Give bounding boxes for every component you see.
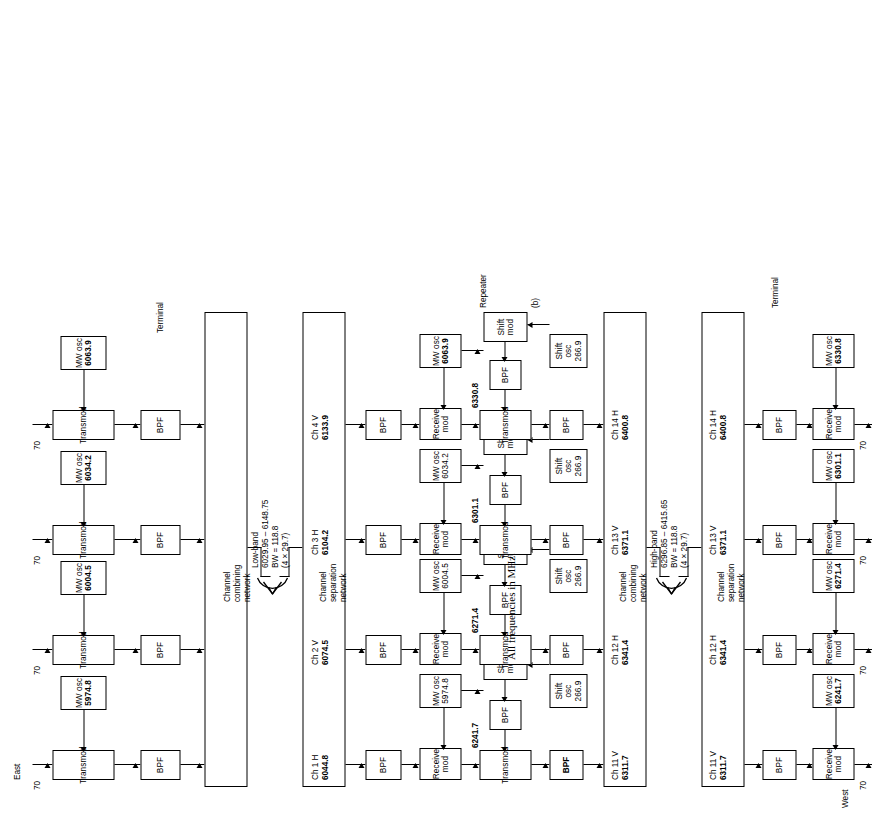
repeater-in-channel-4: Ch 4 V 6133.9 (310, 415, 330, 440)
west-label: West (840, 789, 849, 808)
rep-transmod-1[interactable]: Transmod (479, 750, 531, 780)
east-bpf-bus-arrow-1 (196, 763, 202, 768)
rep-shift-osc-3-freq: 266.9 (573, 456, 582, 477)
repeater-in-channel-1-freq: 6044.8 (320, 755, 330, 780)
repeater-out-channel-2: Ch 12 H 6341.4 (610, 635, 630, 665)
rep-bpf-out-4[interactable]: BPF (549, 410, 583, 440)
east-bpf-2[interactable]: BPF (140, 635, 180, 665)
rep-mw-osc-3[interactable]: MW osc 6034.2 (419, 449, 461, 483)
rep-rx-tx-arrow-4 (472, 423, 478, 428)
east-mw-osc-3[interactable]: MW osc 6034.2 (60, 451, 106, 485)
rep-bpf-out-3[interactable]: BPF (549, 525, 583, 555)
rep-receive-mod-1-label: Receive mod (431, 749, 450, 779)
rep-bpf-in-4[interactable]: BPF (365, 410, 401, 440)
rep-receive-mod-3[interactable]: Receive mod (419, 523, 461, 555)
rep-shift-osc-1-title: Shift osc (554, 675, 573, 707)
rep-bpf-mid-3[interactable]: BPF (489, 475, 521, 505)
rep-osc-shift-joint-1 (461, 690, 462, 691)
west-bpf-rx-arrow-3 (806, 538, 812, 543)
rep-receive-mod-4[interactable]: Receive mod (419, 408, 461, 440)
rep-shift-osc-2[interactable]: Shift osc 266.9 (549, 559, 587, 593)
east-osc-link-3 (83, 485, 84, 525)
west-channel-3: Ch 13 V 6371.1 (708, 525, 728, 555)
west-receive-mod-2[interactable]: Receive mod (812, 633, 854, 665)
rep-bpf-in-2[interactable]: BPF (365, 635, 401, 665)
rep-bpf-rx-arrow-3 (412, 538, 418, 543)
high-band-spacing: (4 × 29.7) (679, 500, 689, 568)
rep-osc-rx-arrow-1 (440, 745, 446, 750)
low-band-spacing: (4 × 29.7) (280, 500, 290, 568)
west-mw-osc-4[interactable]: MW osc 6330.8 (812, 334, 854, 368)
west-mw-osc-3-freq: 6301.1 (833, 453, 842, 479)
west-bpf-4[interactable]: BPF (762, 410, 796, 440)
east-osc-arrow-3 (80, 522, 86, 527)
west-bpf-2[interactable]: BPF (762, 635, 796, 665)
rep-bpf-rx-arrow-2 (412, 648, 418, 653)
west-channel-3-name: Ch 13 V (708, 525, 718, 555)
west-mw-osc-4-title: MW osc (824, 336, 833, 366)
east-transmod-4[interactable]: Transmod (52, 410, 114, 440)
rep-bpf-out-1-label: BPF (561, 757, 570, 774)
rep-transmod-4[interactable]: Transmod (479, 410, 531, 440)
rep-transmod-3[interactable]: Transmod (479, 525, 531, 555)
east-mw-osc-1-title: MW osc (74, 678, 83, 708)
east-transmod-2[interactable]: Transmod (52, 635, 114, 665)
rep-osc-shift-arrow-1 (474, 689, 480, 694)
rep-shift-bpfmid-arrow-4 (501, 357, 507, 362)
west-receive-mod-3-label: Receive mod (824, 524, 843, 554)
rep-receive-mod-2[interactable]: Receive mod (419, 633, 461, 665)
rep-shift-mod-4-label: Shift mod (496, 319, 515, 336)
rep-mw-osc-4[interactable]: MW osc 6063.9 (419, 334, 461, 368)
rep-mw-osc-2[interactable]: MW osc 6004.5 (419, 559, 461, 593)
west-bpf-3[interactable]: BPF (762, 525, 796, 555)
west-channel-1: Ch 11 V 6311.7 (708, 751, 728, 780)
rep-bpfmid-tx-arrow-3 (501, 522, 507, 527)
rep-bpf-in-3[interactable]: BPF (365, 525, 401, 555)
east-transmod-1[interactable]: Transmod (52, 750, 114, 780)
east-if-label-1: 70 (32, 781, 41, 790)
repeater-in-channel-1-name: Ch 1 H (310, 755, 320, 780)
east-mw-osc-3-title: MW osc (74, 453, 83, 483)
west-if-label-4: 70 (858, 441, 867, 450)
rep-shift-osc-1[interactable]: Shift osc 266.9 (549, 674, 587, 708)
west-receive-mod-4[interactable]: Receive mod (812, 408, 854, 440)
rep-receive-mod-1[interactable]: Receive mod (419, 748, 461, 780)
rep-mw-osc-1[interactable]: MW osc 5974.8 (419, 674, 461, 708)
rep-shift-mod-4[interactable]: Shift mod (483, 312, 527, 342)
rep-osc-rx-arrow-4 (440, 405, 446, 410)
east-mw-osc-2[interactable]: MW osc 6004.5 (60, 561, 106, 595)
repeater-out-channel-2-freq: 6341.4 (620, 635, 630, 665)
east-mw-osc-4-title: MW osc (74, 338, 83, 368)
east-bpf-3[interactable]: BPF (140, 525, 180, 555)
repeater-out-channel-4-name: Ch 14 H (610, 410, 620, 440)
east-bpf-1-label: BPF (155, 757, 164, 773)
east-transmod-3[interactable]: Transmod (52, 525, 114, 555)
rep-bpf-out-1[interactable]: BPF (549, 750, 583, 780)
rep-mw-osc-3-title: MW osc (431, 451, 440, 481)
rep-bpf-mid-1[interactable]: BPF (489, 700, 521, 730)
west-mw-osc-3[interactable]: MW osc 6301.1 (812, 449, 854, 483)
rep-shift-osc-4[interactable]: Shift osc 266.9 (549, 334, 587, 368)
west-receive-mod-1[interactable]: Receive mod (812, 748, 854, 780)
west-mw-osc-1[interactable]: MW osc 6241.7 (812, 674, 854, 708)
rep-bpf-mid-4[interactable]: BPF (489, 360, 521, 390)
rep-bpf-out-2[interactable]: BPF (549, 635, 583, 665)
west-osc-arrow-2 (832, 630, 838, 635)
west-mw-osc-2[interactable]: MW osc 6271.4 (812, 559, 854, 593)
west-bpf-1[interactable]: BPF (762, 750, 796, 780)
rep-shift-osc-3[interactable]: Shift osc 266.9 (549, 449, 587, 483)
east-mw-osc-1[interactable]: MW osc 5974.8 (60, 676, 106, 710)
rep-bpf-in-3-label: BPF (378, 532, 387, 548)
west-bus-bpf-arrow-3 (755, 538, 761, 543)
east-mw-osc-4[interactable]: MW osc 6063.9 (60, 336, 106, 370)
rep-mw-osc-2-title: MW osc (431, 561, 440, 591)
lowband-feed-up (288, 547, 302, 548)
west-receive-mod-4-label: Receive mod (824, 409, 843, 439)
east-bpf-4[interactable]: BPF (140, 410, 180, 440)
rep-bpf-in-1[interactable]: BPF (365, 750, 401, 780)
west-bus-bpf-arrow-2 (755, 648, 761, 653)
east-bpf-1[interactable]: BPF (140, 750, 180, 780)
east-tx-bpf-arrow-3 (132, 538, 138, 543)
west-receive-mod-3[interactable]: Receive mod (812, 523, 854, 555)
